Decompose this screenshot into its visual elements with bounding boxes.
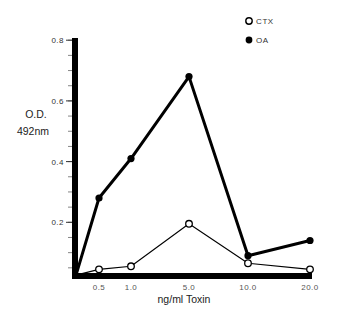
legend-label-oa: OA — [256, 36, 269, 45]
series-line-oa — [76, 77, 310, 275]
series-oa — [76, 73, 314, 275]
x-tick-label: 20.0 — [301, 283, 319, 292]
data-point-oa — [306, 237, 313, 244]
axes — [72, 38, 312, 279]
data-point-ctx — [307, 266, 314, 273]
series-layer — [76, 73, 314, 275]
line-chart: 0.20.40.60.8 0.51.05.010.020.0 O.D. 492n… — [0, 0, 337, 322]
data-point-ctx — [128, 263, 135, 270]
x-tick-label: 0.5 — [93, 283, 106, 292]
y-tick-label: 0.4 — [51, 158, 64, 167]
x-tick-label: 1.0 — [125, 283, 138, 292]
y-axis-title-line1: O.D. — [25, 108, 47, 120]
y-tick-label: 0.8 — [51, 36, 64, 45]
legend-marker-oa — [246, 37, 253, 44]
legend: CTX OA — [246, 17, 274, 45]
x-axis-title: ng/ml Toxin — [158, 293, 211, 305]
y-axis-title-line2: 492nm — [17, 125, 49, 137]
data-point-oa — [127, 155, 134, 162]
legend-marker-ctx — [246, 18, 252, 24]
x-ticks: 0.51.05.010.020.0 — [93, 283, 319, 292]
data-point-oa — [95, 194, 102, 201]
data-point-ctx — [245, 260, 252, 267]
x-tick-label: 5.0 — [183, 283, 196, 292]
data-point-oa — [185, 73, 192, 80]
y-ticks: 0.20.40.60.8 — [51, 36, 72, 268]
data-point-ctx — [186, 221, 193, 228]
data-point-oa — [244, 252, 251, 259]
x-axis — [72, 273, 312, 279]
data-point-ctx — [96, 266, 103, 273]
y-axis — [72, 38, 78, 279]
x-tick-label: 10.0 — [239, 283, 257, 292]
y-tick-label: 0.2 — [51, 218, 64, 227]
legend-label-ctx: CTX — [256, 17, 274, 26]
y-tick-label: 0.6 — [51, 97, 64, 106]
